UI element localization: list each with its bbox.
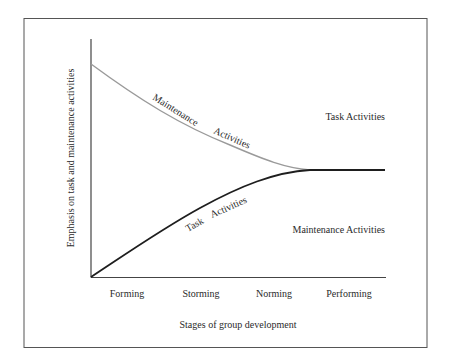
tick-storming: Storming: [182, 288, 219, 299]
chart-canvas: Maintenance Activities Task Activities T…: [0, 0, 450, 364]
curve-label-task-2: Activities: [208, 194, 248, 220]
x-axis-title: Stages of group development: [180, 319, 297, 330]
curve-label-task-1: Task: [184, 215, 206, 234]
y-axis-title: Emphasis on task and maintenance activit…: [65, 69, 76, 248]
right-label-task: Task Activities: [325, 111, 385, 122]
right-label-maintenance: Maintenance Activities: [293, 224, 386, 235]
tick-performing: Performing: [326, 288, 372, 299]
tick-forming: Forming: [110, 288, 144, 299]
curve-label-maintenance-2: Activities: [212, 125, 252, 151]
tick-norming: Norming: [256, 288, 292, 299]
